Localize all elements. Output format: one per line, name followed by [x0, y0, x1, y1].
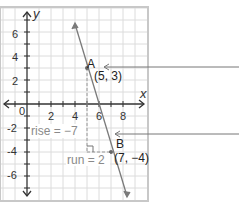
callout-pointer-b [115, 131, 239, 137]
x-tick-label: 8 [120, 110, 126, 122]
x-tick-label: 4 [72, 110, 78, 122]
y-tick-label: 2 [12, 75, 18, 87]
run-label: run = 2 [67, 153, 105, 167]
y-tick-label: 6 [12, 28, 18, 40]
right-angle-marker [87, 146, 93, 152]
point-b-label: B [116, 137, 124, 151]
x-axis-label: x [139, 86, 147, 101]
callout-pointer-a [104, 64, 239, 70]
y-tick-label: -2 [7, 122, 17, 134]
point-a-coords: (5, 3) [94, 69, 122, 83]
point-b-coords: (7, −4) [114, 151, 149, 165]
y-tick-label: -4 [7, 145, 17, 157]
origin-label: 0 [19, 105, 25, 117]
rise-label: rise = −7 [31, 124, 78, 138]
x-tick-label: 2 [48, 110, 54, 122]
y-tick-label: -6 [7, 169, 17, 181]
y-tick-label: 4 [12, 51, 18, 63]
coordinate-graph: y x 0 2 4 6 8 6 4 2 -2 -4 -6 A (5, 3) B … [0, 0, 239, 212]
